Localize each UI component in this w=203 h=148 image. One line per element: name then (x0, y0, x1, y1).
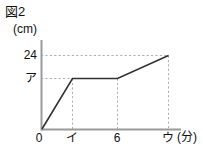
y-tick-label-24: 24 (16, 49, 37, 62)
x-tick-label-i: イ (62, 132, 82, 145)
x-tick-label-u: ウ (158, 132, 178, 145)
x-tick-label-6: 6 (107, 132, 127, 145)
x-tick-label-0: 0 (29, 132, 49, 145)
x-axis-unit-label: (分) (177, 131, 197, 144)
data-line-water-depth (42, 56, 169, 130)
y-tick-label-a: ア (16, 72, 37, 85)
figure-container: 図2 (cm) 24 ア 0 イ 6 ウ (分) (0, 0, 203, 148)
